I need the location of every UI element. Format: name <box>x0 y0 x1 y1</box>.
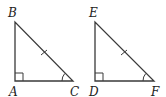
angle-arc-c <box>62 74 65 81</box>
vertex-label-d: D <box>88 85 99 97</box>
vertex-label-b: B <box>7 6 17 20</box>
vertex-label-c: C <box>70 85 79 97</box>
triangle-abc: B A C <box>7 6 79 97</box>
vertex-label-a: A <box>8 85 18 97</box>
right-angle-marker-d <box>95 73 103 81</box>
vertex-label-f: F <box>150 85 160 97</box>
right-angle-marker-a <box>15 73 23 81</box>
triangle-def: E D F <box>88 6 160 97</box>
triangle-abc-outline <box>15 22 73 81</box>
vertex-label-e: E <box>88 6 98 20</box>
angle-arc-f <box>143 74 146 81</box>
triangle-diagram: B A C E D F <box>0 0 166 97</box>
